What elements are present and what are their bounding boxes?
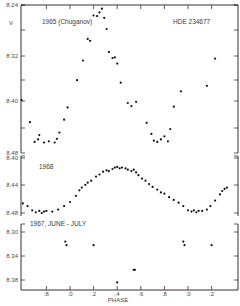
light-curve-figure: 8.248.328.408.488.408.448.488.308.348.38… (0, 0, 240, 306)
axes (21, 5, 238, 290)
y-tick-label: 8.30 (6, 229, 18, 235)
y-tick-label: 8.32 (6, 53, 18, 59)
y-tick-label: 8.40 (6, 98, 18, 104)
x-tick-label: .8 (44, 291, 50, 297)
x-tick-label: .2 (209, 291, 215, 297)
y-tick-label: 8.24 (6, 2, 18, 8)
x-tick-label: .8 (162, 291, 168, 297)
data-points (21, 8, 228, 284)
y-tick-label: 8.44 (6, 182, 18, 188)
y-axis-label: V (9, 20, 13, 26)
x-axis-label: PHASE (108, 297, 128, 303)
bottom-panel-title: 1967, JUNE - JULY (30, 220, 87, 227)
x-tick-label: .0 (185, 291, 191, 297)
y-tick-label: 8.40 (6, 155, 18, 161)
top-panel-title: 1965 (Chuganov) (42, 18, 92, 26)
y-tick-label: 8.38 (6, 277, 18, 283)
x-tick-label: .2 (91, 291, 97, 297)
middle-panel-title: 1968 (39, 163, 54, 170)
x-tick-label: .0 (67, 291, 73, 297)
star-identifier: HDE 234677 (173, 18, 211, 25)
axis-labels: 8.248.328.408.488.408.448.488.308.348.38… (6, 2, 214, 297)
y-tick-label: 8.34 (6, 253, 18, 259)
y-tick-label: 8.48 (6, 210, 18, 216)
x-tick-label: .6 (138, 291, 144, 297)
